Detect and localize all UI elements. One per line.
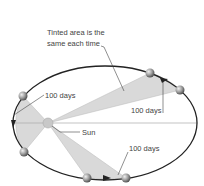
planet-icon — [122, 174, 131, 183]
planet-icon — [20, 148, 29, 157]
caption-line-1: Tinted area is the — [47, 28, 105, 37]
planet-icon — [19, 92, 28, 101]
caption-line-2: same each time — [47, 39, 100, 48]
kepler-second-law-diagram: Tinted area is the same each time 100 da… — [0, 0, 204, 186]
planet-icon — [83, 174, 92, 183]
planet-icon — [176, 86, 185, 95]
interval-label-left: 100 days — [45, 91, 76, 100]
sun-icon — [43, 118, 53, 128]
interval-label-right: 100 days — [131, 106, 162, 115]
planet-icon — [146, 69, 155, 78]
sun-label: Sun — [82, 128, 95, 137]
interval-label-bottom: 100 days — [129, 144, 160, 153]
